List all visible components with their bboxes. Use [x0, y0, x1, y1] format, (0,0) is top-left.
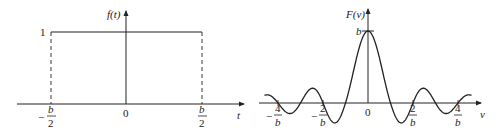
svg-text:b: b: [320, 116, 326, 128]
figure-canvas: f(t) 1 0 t − b 2 b 2 F(v) b 0 v − 4: [0, 0, 496, 136]
svg-text:2: 2: [199, 117, 205, 129]
svg-text:−: −: [266, 110, 272, 122]
svg-text:b: b: [455, 116, 461, 128]
svg-text:−: −: [38, 111, 44, 123]
f-axis-label: f(t): [107, 8, 121, 21]
F-axis-label: F(v): [345, 8, 365, 21]
t-axis-label: t: [237, 109, 241, 121]
x-tick-zero: 0: [123, 107, 129, 119]
x-tick-minus-4-over-b: − 4 b: [266, 102, 282, 128]
x-tick-minus-2-over-b: − 2 b: [311, 102, 327, 128]
svg-text:2: 2: [48, 117, 54, 129]
rect-pulse-plot: f(t) 1 0 t − b 2 b 2: [17, 8, 244, 129]
x-tick-zero: 0: [365, 106, 371, 118]
sinc-plot: F(v) b 0 v − 4 b − 2 b 2 b 4 b: [259, 8, 485, 128]
v-axis-label: v: [480, 108, 485, 120]
svg-text:−: −: [311, 110, 317, 122]
svg-text:b: b: [275, 116, 281, 128]
y-tick-one: 1: [40, 26, 46, 38]
y-tick-peak-b: b: [356, 25, 362, 37]
svg-text:b: b: [410, 116, 416, 128]
svg-text:b: b: [199, 103, 205, 115]
svg-text:b: b: [48, 103, 54, 115]
x-tick-b-half: b 2: [198, 103, 207, 129]
x-tick-minus-b-half: − b 2: [38, 103, 56, 129]
